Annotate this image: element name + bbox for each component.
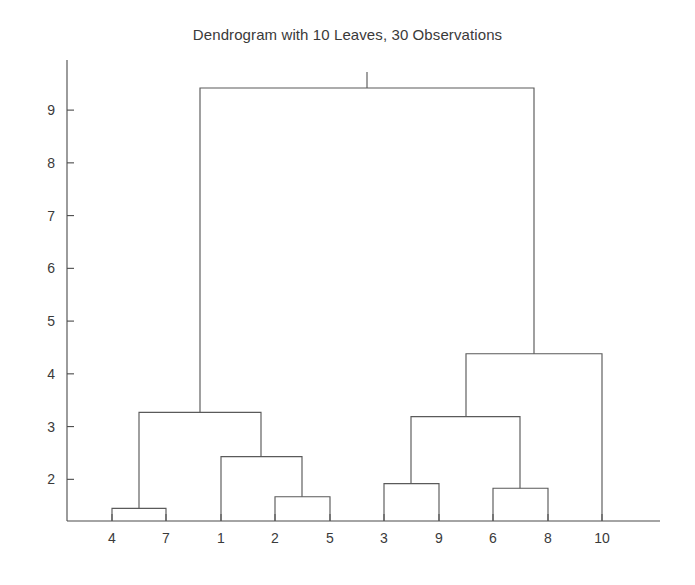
leaf-label: 10 <box>594 530 610 546</box>
leaf-label: 5 <box>326 530 334 546</box>
y-tick-label: 3 <box>47 419 55 435</box>
leaf-label: 7 <box>162 530 170 546</box>
dendrogram-link <box>275 497 330 521</box>
leaf-label: 2 <box>271 530 279 546</box>
x-tick-labels-group: 47125396810 <box>108 530 610 546</box>
leaf-label: 4 <box>108 530 116 546</box>
dendrogram-link <box>466 354 602 521</box>
y-tick-label: 2 <box>47 471 55 487</box>
leaf-label: 9 <box>435 530 443 546</box>
y-tick-labels-group: 23456789 <box>47 102 55 487</box>
dendrogram-link <box>411 417 520 489</box>
dendrogram-link <box>221 457 302 521</box>
leaf-label: 6 <box>489 530 497 546</box>
dendrogram-link <box>200 88 534 412</box>
y-tick-label: 7 <box>47 208 55 224</box>
y-tick-label: 4 <box>47 366 55 382</box>
dendrogram-link <box>384 484 439 521</box>
leaf-label: 8 <box>544 530 552 546</box>
dendrogram-links-group <box>112 72 602 521</box>
dendrogram-plot-area: 23456789 47125396810 <box>0 0 695 585</box>
y-axis-group <box>67 60 74 521</box>
leaf-label: 3 <box>380 530 388 546</box>
leaf-label: 1 <box>217 530 225 546</box>
x-axis-group <box>67 514 660 521</box>
dendrogram-link <box>112 508 166 521</box>
dendrogram-link <box>139 412 261 508</box>
dendrogram-figure: Dendrogram with 10 Leaves, 30 Observatio… <box>0 0 695 585</box>
dendrogram-link <box>493 488 548 521</box>
y-tick-label: 6 <box>47 260 55 276</box>
y-tick-label: 5 <box>47 313 55 329</box>
y-tick-label: 9 <box>47 102 55 118</box>
y-tick-label: 8 <box>47 155 55 171</box>
